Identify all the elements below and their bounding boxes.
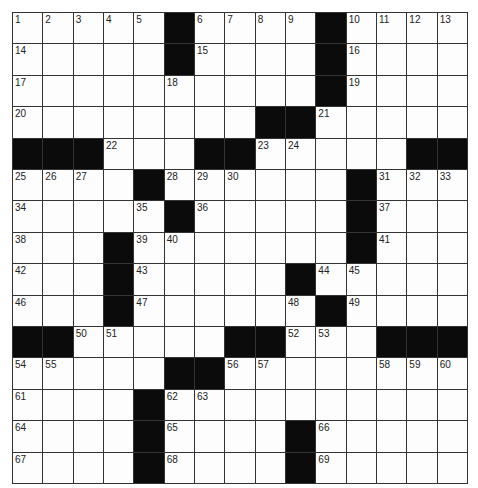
grid-cell[interactable]: 23 <box>256 139 285 169</box>
grid-cell[interactable] <box>377 107 406 137</box>
grid-cell[interactable] <box>165 264 194 294</box>
grid-cell[interactable]: 2 <box>43 13 72 43</box>
grid-cell[interactable] <box>74 233 103 263</box>
grid-cell[interactable] <box>74 296 103 326</box>
grid-cell[interactable] <box>104 170 133 200</box>
grid-cell[interactable] <box>43 107 72 137</box>
grid-cell[interactable] <box>256 421 285 451</box>
grid-cell[interactable]: 21 <box>316 107 345 137</box>
grid-cell[interactable] <box>74 358 103 388</box>
grid-cell[interactable] <box>74 421 103 451</box>
grid-cell[interactable]: 31 <box>377 170 406 200</box>
grid-cell[interactable]: 1 <box>13 13 42 43</box>
grid-cell[interactable] <box>225 107 254 137</box>
grid-cell[interactable] <box>286 233 315 263</box>
grid-cell[interactable] <box>256 296 285 326</box>
grid-cell[interactable] <box>438 44 467 74</box>
grid-cell[interactable] <box>407 76 436 106</box>
grid-cell[interactable] <box>43 233 72 263</box>
grid-cell[interactable] <box>347 107 376 137</box>
grid-cell[interactable] <box>134 358 163 388</box>
grid-cell[interactable]: 30 <box>225 170 254 200</box>
grid-cell[interactable]: 26 <box>43 170 72 200</box>
grid-cell[interactable]: 40 <box>165 233 194 263</box>
grid-cell[interactable]: 53 <box>316 327 345 357</box>
grid-cell[interactable] <box>74 453 103 483</box>
grid-cell[interactable] <box>347 421 376 451</box>
grid-cell[interactable] <box>104 107 133 137</box>
grid-cell[interactable] <box>377 296 406 326</box>
grid-cell[interactable] <box>347 358 376 388</box>
grid-cell[interactable] <box>74 107 103 137</box>
grid-cell[interactable]: 44 <box>316 264 345 294</box>
grid-cell[interactable] <box>74 44 103 74</box>
grid-cell[interactable] <box>316 390 345 420</box>
grid-cell[interactable] <box>225 76 254 106</box>
grid-cell[interactable] <box>286 201 315 231</box>
grid-cell[interactable]: 64 <box>13 421 42 451</box>
grid-cell[interactable] <box>225 44 254 74</box>
grid-cell[interactable]: 6 <box>195 13 224 43</box>
grid-cell[interactable]: 15 <box>195 44 224 74</box>
grid-cell[interactable]: 46 <box>13 296 42 326</box>
grid-cell[interactable] <box>225 201 254 231</box>
grid-cell[interactable]: 48 <box>286 296 315 326</box>
grid-cell[interactable]: 50 <box>74 327 103 357</box>
grid-cell[interactable]: 3 <box>74 13 103 43</box>
grid-cell[interactable] <box>225 264 254 294</box>
grid-cell[interactable] <box>438 201 467 231</box>
grid-cell[interactable]: 41 <box>377 233 406 263</box>
grid-cell[interactable]: 67 <box>13 453 42 483</box>
grid-cell[interactable]: 25 <box>13 170 42 200</box>
grid-cell[interactable] <box>256 201 285 231</box>
grid-cell[interactable] <box>43 421 72 451</box>
grid-cell[interactable]: 8 <box>256 13 285 43</box>
grid-cell[interactable]: 10 <box>347 13 376 43</box>
grid-cell[interactable] <box>43 44 72 74</box>
grid-cell[interactable] <box>407 233 436 263</box>
grid-cell[interactable] <box>104 201 133 231</box>
grid-cell[interactable] <box>195 233 224 263</box>
grid-cell[interactable]: 43 <box>134 264 163 294</box>
grid-cell[interactable] <box>316 170 345 200</box>
grid-cell[interactable] <box>286 390 315 420</box>
grid-cell[interactable] <box>347 453 376 483</box>
grid-cell[interactable] <box>165 327 194 357</box>
grid-cell[interactable]: 51 <box>104 327 133 357</box>
grid-cell[interactable] <box>43 201 72 231</box>
grid-cell[interactable]: 9 <box>286 13 315 43</box>
grid-cell[interactable] <box>225 421 254 451</box>
grid-cell[interactable] <box>134 327 163 357</box>
grid-cell[interactable]: 11 <box>377 13 406 43</box>
grid-cell[interactable]: 7 <box>225 13 254 43</box>
grid-cell[interactable] <box>74 390 103 420</box>
grid-cell[interactable] <box>377 139 406 169</box>
grid-cell[interactable] <box>407 44 436 74</box>
grid-cell[interactable] <box>347 139 376 169</box>
grid-cell[interactable] <box>438 296 467 326</box>
grid-cell[interactable] <box>407 201 436 231</box>
grid-cell[interactable] <box>256 76 285 106</box>
grid-cell[interactable]: 55 <box>43 358 72 388</box>
grid-cell[interactable]: 13 <box>438 13 467 43</box>
grid-cell[interactable] <box>438 453 467 483</box>
grid-cell[interactable] <box>407 390 436 420</box>
grid-cell[interactable] <box>195 327 224 357</box>
grid-cell[interactable] <box>134 139 163 169</box>
grid-cell[interactable] <box>195 421 224 451</box>
grid-cell[interactable]: 42 <box>13 264 42 294</box>
grid-cell[interactable]: 14 <box>13 44 42 74</box>
grid-cell[interactable] <box>43 296 72 326</box>
grid-cell[interactable] <box>43 453 72 483</box>
grid-cell[interactable] <box>256 264 285 294</box>
grid-cell[interactable]: 63 <box>195 390 224 420</box>
grid-cell[interactable]: 57 <box>256 358 285 388</box>
grid-cell[interactable] <box>377 264 406 294</box>
grid-cell[interactable] <box>407 107 436 137</box>
grid-cell[interactable] <box>438 233 467 263</box>
grid-cell[interactable]: 32 <box>407 170 436 200</box>
grid-cell[interactable] <box>43 390 72 420</box>
grid-cell[interactable]: 16 <box>347 44 376 74</box>
grid-cell[interactable] <box>347 327 376 357</box>
grid-cell[interactable]: 56 <box>225 358 254 388</box>
